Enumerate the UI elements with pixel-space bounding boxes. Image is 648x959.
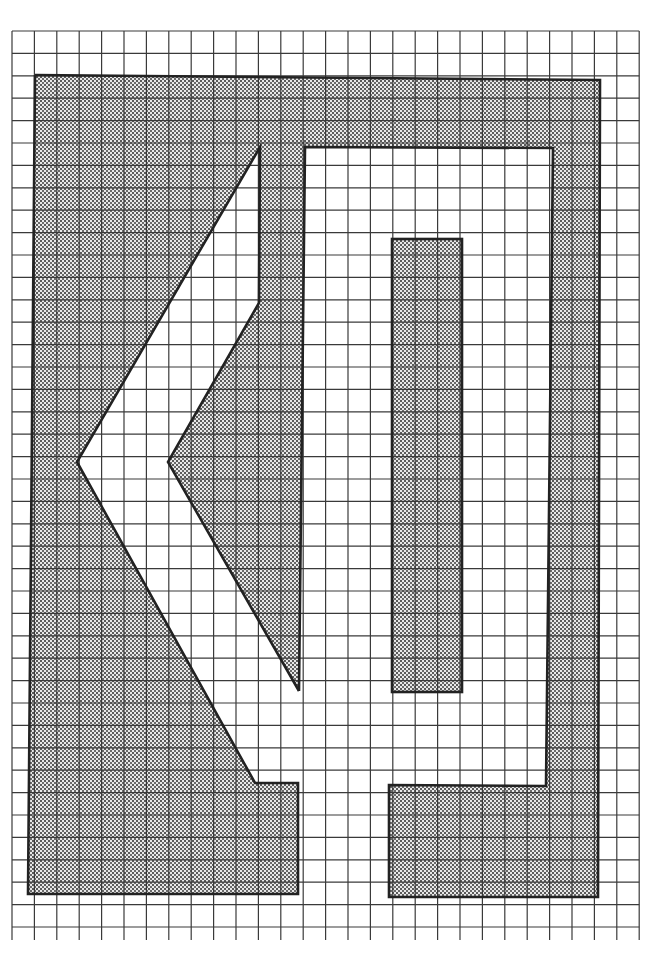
left-shaded-block: [28, 75, 600, 897]
shaded-region: [28, 75, 600, 897]
inner-bar: [392, 239, 462, 692]
grid-pattern-figure: [0, 0, 648, 959]
